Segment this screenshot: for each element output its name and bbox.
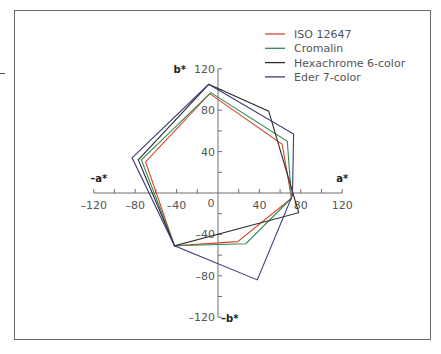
legend-label: Hexachrome 6-color bbox=[294, 57, 406, 70]
axes: –120–80–4040801200–120–80–404080120a*–a*… bbox=[81, 63, 353, 324]
x-tick-label: 120 bbox=[332, 199, 353, 212]
y-tick-label: 80 bbox=[201, 104, 215, 117]
b-star-label: b* bbox=[174, 64, 187, 75]
legend-label: ISO 12647 bbox=[294, 28, 351, 41]
lab-gamut-chart: –120–80–4040801200–120–80–404080120a*–a*… bbox=[0, 0, 441, 354]
y-tick-label: 40 bbox=[201, 146, 215, 159]
x-tick-label: –40 bbox=[167, 199, 187, 212]
x-tick-label: 40 bbox=[252, 199, 266, 212]
legend-label: Cromalin bbox=[294, 42, 343, 55]
x-tick-label: 80 bbox=[294, 199, 308, 212]
neg-a-star-label: –a* bbox=[90, 173, 108, 184]
series-polygons bbox=[132, 84, 299, 280]
y-tick-label: –120 bbox=[189, 311, 216, 324]
y-tick-label: 120 bbox=[194, 63, 215, 76]
series-iso-12647 bbox=[146, 94, 292, 246]
neg-b-star-label: –b* bbox=[221, 313, 239, 324]
origin-label: 0 bbox=[208, 197, 215, 210]
y-tick-label: –80 bbox=[196, 270, 216, 283]
legend-label: Eder 7-color bbox=[294, 71, 361, 84]
x-tick-label: –80 bbox=[125, 199, 145, 212]
legend: ISO 12647CromalinHexachrome 6-colorEder … bbox=[265, 28, 406, 84]
a-star-label: a* bbox=[336, 173, 349, 184]
x-tick-label: –120 bbox=[81, 199, 108, 212]
